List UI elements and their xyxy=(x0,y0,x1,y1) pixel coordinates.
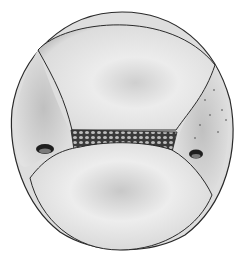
illustration xyxy=(0,0,243,257)
sphere-drawing xyxy=(0,0,243,257)
